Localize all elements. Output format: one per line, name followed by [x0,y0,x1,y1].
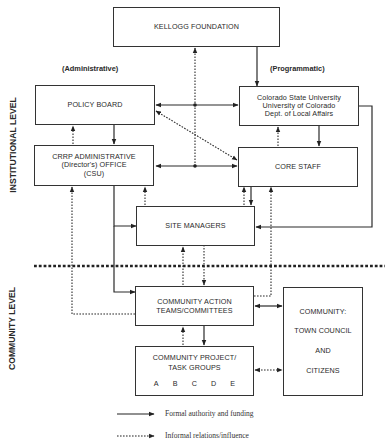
task-group-letters: A B C D E [154,379,235,389]
core-staff-label: CORE STAFF [275,163,321,172]
community-level-label: COMMUNITY LEVEL [7,290,17,370]
site-managers-label: SITE MANAGERS [165,222,225,231]
legend-informal-label: Informal relations/influence [165,431,249,440]
task-group-c: C [192,379,197,389]
kellogg-label: KELLOGG FOUNDATION [154,23,239,32]
policy-board-label: POLICY BOARD [68,101,123,110]
universities-box: Colorado State University University of … [239,86,359,126]
administrative-label: (Administrative) [62,64,118,73]
task-groups-line-2: TASK GROUPS [168,363,221,373]
legend-formal-label: Formal authority and funding [165,409,254,418]
community-project-task-groups-box: COMMUNITY PROJECT/ TASK GROUPS A B C D E [135,346,254,396]
universities-line-3: Dept. of Local Affairs [265,110,333,118]
task-group-a: A [154,379,159,389]
community-town-council-box: COMMUNITY: TOWN COUNCIL AND CITIZENS [283,287,363,396]
policy-board-box: POLICY BOARD [35,85,155,125]
community-line-3: AND [315,347,330,356]
programmatic-label: (Programmatic) [270,64,325,73]
task-group-d: D [211,379,216,389]
community-line-1: COMMUNITY: [300,308,347,317]
action-teams-line-1: COMMUNITY ACTION [157,297,232,307]
task-groups-line-1: COMMUNITY PROJECT/ [153,353,237,363]
core-staff-box: CORE STAFF [238,147,358,187]
action-teams-line-2: TEAMS/COMMITTEES [156,306,232,316]
community-action-teams-box: COMMUNITY ACTION TEAMS/COMMITTEES [135,286,254,326]
task-group-b: B [173,379,178,389]
kellogg-foundation-box: KELLOGG FOUNDATION [113,7,280,47]
institutional-level-label: INSTITUTIONAL LEVEL [8,95,18,195]
site-managers-box: SITE MANAGERS [136,206,255,246]
community-line-4: CITIZENS [306,367,340,376]
community-line-2: TOWN COUNCIL [294,327,351,336]
crrp-line-3: (CSU) [84,170,104,178]
crrp-office-box: CRRP ADMINISTRATIVE (Director's) OFFICE … [34,145,154,186]
task-group-e: E [230,379,235,389]
